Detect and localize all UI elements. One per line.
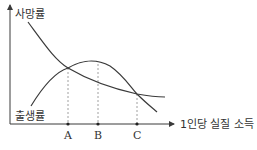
y-axis-label: 사망률	[15, 9, 45, 20]
birth-rate-label: 출생률	[15, 111, 45, 122]
death-rate-curve	[28, 22, 165, 97]
birth-rate-curve	[31, 61, 157, 112]
point-c-dot	[135, 122, 138, 125]
point-a-dot	[66, 122, 69, 125]
point-a-label: A	[64, 130, 72, 141]
x-axis-label: 1인당 실질 소득	[180, 119, 254, 130]
point-c-label: C	[133, 130, 141, 141]
point-b-dot	[96, 122, 99, 125]
point-b-label: B	[94, 130, 102, 141]
